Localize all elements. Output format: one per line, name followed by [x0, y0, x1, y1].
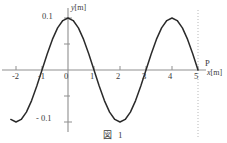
- x-tick-label-2: 2: [116, 72, 120, 81]
- point-p-label: P: [205, 59, 210, 68]
- x-axis-label: x[m]: [207, 69, 222, 77]
- wave-figure: y[m] x[m] P 0.1 - 0.1 -2 -1 0 1 2 3 4 5 …: [0, 0, 227, 143]
- figure-caption: 図 1: [0, 128, 227, 141]
- y-axis-label: y[m]: [71, 4, 86, 12]
- x-tick-label-4: 4: [168, 72, 172, 81]
- x-tick-label-1: 1: [90, 72, 94, 81]
- x-tick-label-0: 0: [64, 72, 68, 81]
- x-tick-label-minus1: -1: [38, 72, 45, 81]
- y-tick-label-negative: - 0.1: [36, 114, 52, 123]
- x-tick-label-minus2: -2: [12, 72, 19, 81]
- y-tick-label-positive: 0.1: [42, 12, 53, 21]
- x-tick-label-5: 5: [194, 72, 198, 81]
- x-tick-label-3: 3: [142, 72, 146, 81]
- wave-plot-svg: [0, 0, 227, 143]
